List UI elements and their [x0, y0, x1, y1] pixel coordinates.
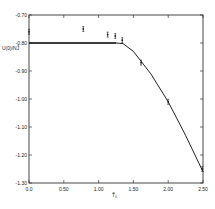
x-tick-label: 1.50 — [129, 186, 139, 192]
y-axis-label: U(0)/NJ̃ — [2, 45, 20, 51]
chart: 0.00.501.001.502.002.50-0.70-0.80-0.90-1… — [0, 0, 215, 209]
x-tick-label: 0.0 — [26, 186, 33, 192]
x-axis-label: T̃₀ — [112, 192, 117, 198]
x-tick-label: 0.50 — [59, 186, 69, 192]
y-tick-label: -1.10 — [16, 124, 28, 130]
y-tick-label: -0.70 — [16, 12, 28, 18]
axis-ticks — [29, 15, 203, 183]
plot-frame — [29, 15, 203, 183]
tick-labels: 0.00.501.001.502.002.50-0.70-0.80-0.90-1… — [16, 12, 208, 192]
y-tick-label: -1.30 — [16, 180, 28, 186]
x-tick-label: 1.00 — [94, 186, 104, 192]
data-points — [28, 27, 203, 172]
x-tick-label: 2.50 — [198, 186, 208, 192]
x-tick-label: 2.00 — [163, 186, 173, 192]
y-tick-label: -1.00 — [16, 96, 28, 102]
y-tick-label: -0.90 — [16, 68, 28, 74]
fit-curve — [29, 43, 203, 172]
y-tick-label: -1.20 — [16, 152, 28, 158]
